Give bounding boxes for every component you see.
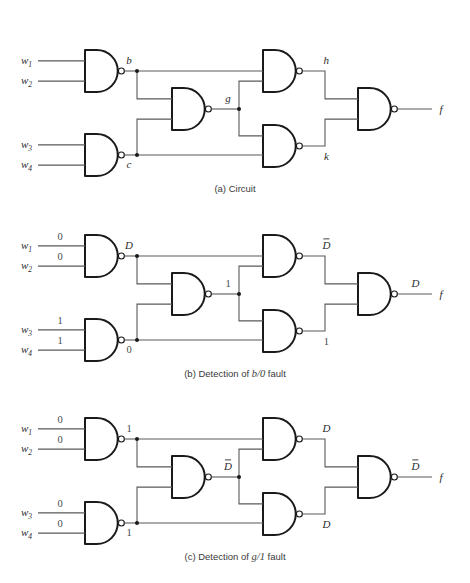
inversion-bubble [296,511,302,517]
input-label-w4: w4 [21,526,32,541]
svg-text:f: f [439,288,444,300]
inversion-bubble [391,291,397,297]
nand-gate-c [85,502,124,544]
node-value-f: D [410,460,419,472]
junction-dot-c [135,521,139,525]
junction-dot-g [237,107,241,111]
svg-text:0: 0 [57,498,62,509]
output-label-f: f [439,103,444,115]
input-label-w3: w3 [21,323,32,338]
svg-text:0: 0 [57,414,62,425]
inversion-bubble [296,328,302,334]
nand-gate-g [172,88,211,130]
wire-c-to-g [137,119,172,155]
svg-text:w4: w4 [21,343,32,358]
svg-text:1: 1 [57,335,62,346]
inversion-bubble [296,143,302,149]
inversion-bubble [391,474,397,480]
svg-text:k: k [324,150,330,162]
wire-k-to-f [302,304,358,331]
svg-text:(c) Detection of g/1 fault: (c) Detection of g/1 fault [184,551,285,562]
svg-text:h: h [324,54,330,66]
svg-text:w4: w4 [21,526,32,541]
svg-text:b: b [126,54,132,66]
input-value-w2: 0 [57,251,62,262]
inversion-bubble [118,68,124,74]
node-label-b: 1 [126,423,131,434]
fault-detection-figure: w1w2w3w4bcghkf(a) Circuitw10w20w31w41D01… [0,0,470,583]
svg-text:1: 1 [126,527,131,538]
wire-g-to-h [239,449,263,477]
output-label-f: f [439,471,444,483]
node-label-h: D [321,422,330,434]
node-label-h: D [321,239,330,251]
panel-b: w10w20w31w41D01D1Df(b) Detection of b/0 … [21,231,445,379]
svg-text:w1: w1 [21,54,32,69]
svg-text:D: D [124,239,133,251]
svg-text:D: D [321,239,330,251]
svg-text:D: D [321,518,330,530]
svg-text:D: D [321,422,330,434]
junction-dot-g [237,292,241,296]
svg-text:0: 0 [126,344,131,355]
inversion-bubble [118,520,124,526]
nand-gate-k [263,310,302,352]
svg-text:1: 1 [324,336,329,347]
svg-text:1: 1 [225,278,230,289]
wire-g-to-k [239,294,263,321]
svg-text:w2: w2 [21,74,32,89]
input-label-w2: w2 [21,74,32,89]
wire-g-to-h [239,266,263,294]
wire-g-to-k [239,109,263,136]
wire-b-to-g [137,256,172,284]
nand-gate-h [263,50,302,92]
wire-h-to-f [302,256,358,284]
svg-text:D: D [410,460,419,472]
nand-gate-f [358,273,397,315]
inversion-bubble [296,253,302,259]
svg-text:w1: w1 [21,422,32,437]
nand-gate-f [358,88,397,130]
svg-text:1: 1 [126,423,131,434]
wire-k-to-f [302,119,358,146]
node-label-k: 1 [324,336,329,347]
inversion-bubble [296,436,302,442]
nand-gate-k [263,493,302,535]
svg-text:w2: w2 [21,259,32,274]
input-value-w2: 0 [57,434,62,445]
input-label-w3: w3 [21,138,32,153]
svg-text:0: 0 [57,231,62,242]
input-label-w1: w1 [21,54,32,69]
svg-text:D: D [223,460,232,472]
wire-k-to-f [302,487,358,514]
nand-gate-c [85,134,124,176]
panel-caption-c: (c) Detection of g/1 fault [184,551,285,562]
wire-h-to-f [302,439,358,467]
input-value-w3: 0 [57,498,62,509]
input-label-w4: w4 [21,343,32,358]
nand-gate-b [85,418,124,460]
node-label-h: h [324,54,330,66]
input-value-w1: 0 [57,414,62,425]
svg-text:0: 0 [57,251,62,262]
node-label-k: k [324,150,330,162]
wire-c-to-g [137,487,172,523]
node-label-k: D [321,518,330,530]
junction-dot-c [135,338,139,342]
inversion-bubble [118,253,124,259]
input-label-w1: w1 [21,239,32,254]
nand-gate-b [85,235,124,277]
input-label-w4: w4 [21,158,32,173]
inversion-bubble [205,474,211,480]
node-label-c: c [127,158,132,170]
node-label-g: g [225,92,231,104]
inversion-bubble [205,106,211,112]
panel-caption-a: (a) Circuit [214,183,256,194]
wire-h-to-f [302,71,358,99]
inversion-bubble [205,291,211,297]
svg-text:w1: w1 [21,239,32,254]
node-label-g: D [223,460,232,472]
wire-b-to-g [137,439,172,467]
node-value-f: D [410,277,419,289]
inversion-bubble [296,68,302,74]
